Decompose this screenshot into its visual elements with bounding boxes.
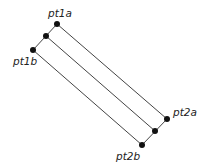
parallel-lines-diagram: pt1a pt1b pt2a pt2b bbox=[0, 0, 212, 164]
segment-middle bbox=[46, 36, 155, 131]
label-pt2b: pt2b bbox=[115, 150, 140, 162]
segment-top bbox=[57, 24, 167, 119]
point-pt1b bbox=[30, 47, 36, 53]
point-pt1a bbox=[54, 21, 60, 27]
label-pt1a: pt1a bbox=[47, 7, 72, 19]
label-pt2a: pt2a bbox=[172, 106, 197, 118]
point-pt2a bbox=[164, 116, 170, 122]
label-pt1b: pt1b bbox=[12, 55, 37, 67]
point-pt2b bbox=[139, 142, 145, 148]
point-mid2 bbox=[152, 128, 158, 134]
point-mid1 bbox=[43, 33, 49, 39]
segment-bottom bbox=[33, 50, 142, 145]
